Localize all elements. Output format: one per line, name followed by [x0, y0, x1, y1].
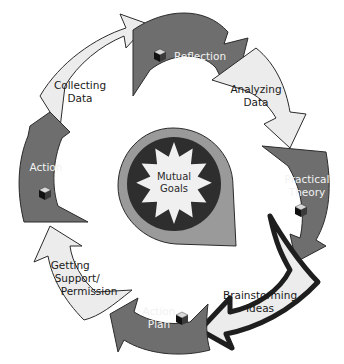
label-reflection-text: Reflection	[174, 50, 226, 62]
arrow-practical-theory[interactable]	[262, 146, 329, 262]
label-getting-support-line3: Permission	[51, 285, 118, 298]
label-reflection: Reflection	[174, 50, 226, 63]
center-label: Mutual Goals	[157, 171, 191, 195]
arrow-collecting-data[interactable]	[40, 14, 148, 128]
label-practical-theory-line1: Practical	[285, 173, 330, 186]
label-analyzing-data-line1: Analyzing	[230, 83, 281, 96]
label-action-plan-line1: Action	[143, 305, 176, 318]
label-analyzing-data: Analyzing Data	[230, 83, 281, 109]
label-action-plan: Action Plan	[143, 305, 176, 331]
label-collecting-data: Collecting Data	[54, 79, 106, 105]
label-getting-support-line1: Getting	[51, 259, 118, 272]
label-collecting-data-line1: Collecting	[54, 79, 106, 92]
label-getting-support: Getting Support/ Permission	[51, 259, 118, 298]
cycle-diagram: Reflection Analyzing Data Practical Theo…	[0, 0, 344, 364]
label-action-text: Action	[30, 161, 63, 173]
label-action-plan-line2: Plan	[143, 318, 176, 331]
center-label-line2: Goals	[157, 183, 191, 195]
label-practical-theory-line2: Theory	[285, 186, 330, 199]
label-collecting-data-line2: Data	[54, 92, 106, 105]
label-getting-support-line2: Support/	[51, 272, 118, 285]
label-action: Action	[30, 161, 63, 174]
center-label-line1: Mutual	[157, 171, 191, 183]
label-practical-theory: Practical Theory	[285, 173, 330, 199]
label-analyzing-data-line2: Data	[230, 96, 281, 109]
label-brainstorming-ideas-line1: Brainstorming	[223, 289, 297, 302]
label-brainstorming-ideas: Brainstorming Ideas	[223, 289, 297, 315]
label-brainstorming-ideas-line2: Ideas	[223, 302, 297, 315]
